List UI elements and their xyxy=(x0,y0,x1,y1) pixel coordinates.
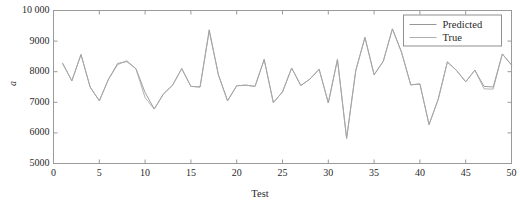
chart-figure: a Test 5000600070008000900010 000 051015… xyxy=(0,0,520,207)
plot-area: PredictedTrue xyxy=(0,0,520,207)
legend: PredictedTrue xyxy=(404,15,502,46)
legend-label-true: True xyxy=(443,32,463,43)
legend-label-predicted: Predicted xyxy=(443,19,483,30)
